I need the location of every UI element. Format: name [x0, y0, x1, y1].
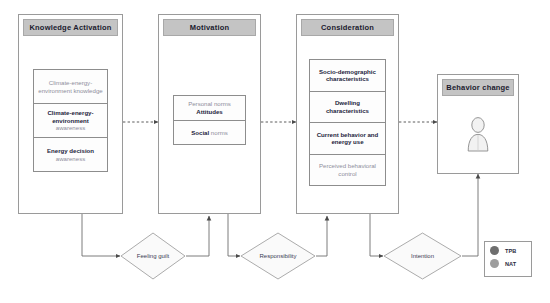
column-header-motivation: Motivation — [163, 19, 256, 36]
box-behavior-change: Behavior change — [437, 74, 519, 174]
diagram-canvas: Knowledge Activation Climate-energy-envi… — [0, 0, 550, 303]
path-responsibility-to-consideration — [316, 216, 327, 256]
item-label-bold: Energy decision — [47, 147, 94, 154]
decision-label: Intention — [411, 253, 434, 259]
item-personal-norms-attitudes: Personal norms Attitudes — [174, 96, 245, 121]
legend-swatch-nat — [490, 259, 499, 268]
legend-label-tpb: TPB — [505, 248, 516, 254]
column-motivation: Motivation Personal norms Attitudes Soci… — [158, 14, 261, 214]
decision-responsibility: Responsibility — [240, 232, 316, 280]
inner-stack-motivation: Personal norms Attitudes Social norms — [173, 95, 246, 145]
behavior-change-body — [438, 99, 518, 167]
item-label-bold: Social — [191, 129, 209, 136]
inner-stack-consideration: Socio-demographic characteristics Dwelli… — [309, 59, 386, 186]
item-current-behavior-and-energy-use: Current behavior and energy use — [310, 123, 385, 155]
item-label-mixed: Social norms — [191, 129, 228, 136]
legend-swatch-tpb — [490, 246, 499, 255]
column-header-consideration: Consideration — [301, 19, 394, 36]
item-label: Climate-energy-environment knowledge — [38, 79, 103, 94]
item-label: Dwelling characteristics — [314, 99, 381, 114]
legend: TPB NAT — [484, 241, 532, 277]
decision-label: Responsibility — [259, 253, 296, 259]
item-label-light: awareness — [56, 155, 85, 162]
item-label-bold: Climate-energy-environment — [38, 109, 103, 124]
item-climate-energy-environment-knowledge: Climate-energy-environment knowledge — [34, 70, 107, 104]
item-label-light: awareness — [56, 124, 85, 131]
item-label-bold: Attitudes — [196, 108, 222, 115]
legend-label-nat: NAT — [505, 261, 516, 267]
item-socio-demographic-characteristics: Socio-demographic characteristics — [310, 60, 385, 92]
path-consideration-to-intention — [370, 214, 383, 256]
decision-label: Feeling guilt — [137, 253, 169, 259]
item-dwelling-characteristics: Dwelling characteristics — [310, 92, 385, 124]
path-intention-to-behavior-change — [462, 174, 478, 256]
path-knowledge-to-feeling-guilt — [82, 214, 120, 256]
column-knowledge-activation: Knowledge Activation Climate-energy-envi… — [18, 14, 123, 214]
path-motivation-to-responsibility — [228, 214, 240, 256]
decision-intention: Intention — [383, 232, 462, 280]
item-label-light: Personal norms — [188, 100, 231, 107]
person-icon — [465, 114, 491, 152]
decision-feeling-guilt: Feeling guilt — [120, 232, 186, 280]
column-header-behavior-change: Behavior change — [442, 79, 514, 96]
item-perceived-behavioral-control: Perceived behavioral control — [310, 155, 385, 186]
item-label-light: norms — [211, 129, 228, 136]
item-climate-energy-environment-awareness: Climate-energy-environment awareness — [34, 104, 107, 138]
item-energy-decision-awareness: Energy decision awareness — [34, 138, 107, 171]
inner-stack-knowledge-activation: Climate-energy-environment knowledge Cli… — [33, 69, 108, 172]
column-consideration: Consideration Socio-demographic characte… — [296, 14, 399, 214]
path-feeling-guilt-to-motivation — [186, 216, 209, 256]
item-label: Perceived behavioral control — [314, 162, 381, 177]
legend-item-tpb: TPB — [490, 246, 526, 255]
item-social-norms: Social norms — [174, 121, 245, 145]
item-label: Socio-demographic characteristics — [314, 68, 381, 83]
column-header-knowledge-activation: Knowledge Activation — [23, 19, 118, 36]
item-label: Current behavior and energy use — [314, 131, 381, 146]
legend-item-nat: NAT — [490, 259, 526, 268]
